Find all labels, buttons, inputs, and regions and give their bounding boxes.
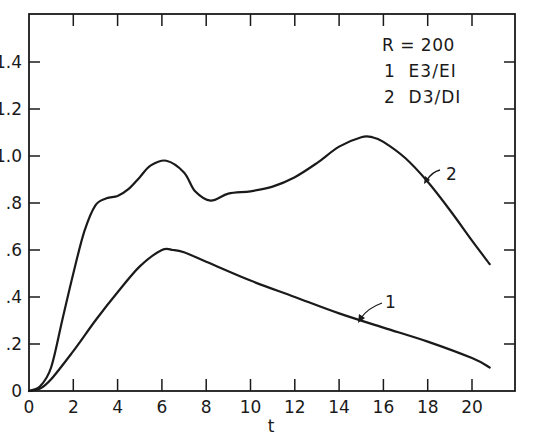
y-tick-label: 0 [11,381,22,401]
data-curves [29,136,490,391]
x-tick-label: 8 [201,397,212,417]
x-tick-label: 6 [156,397,167,417]
y-tick-label: 1.0 [0,146,22,166]
y-tick-label: .2 [6,334,22,354]
y-tick-label: .8 [6,193,22,213]
y-tick-label: .6 [6,240,22,260]
x-tick-label: 16 [373,397,395,417]
legend-entry-1: 1 E3/EI [384,61,457,81]
legend-header: R = 200 [382,35,455,55]
annotation-label-1: 1 [385,292,396,312]
plot-area: 0.2.4.6.81.01.21.4 02468101214161820 21 … [0,0,539,436]
legend-entry-2: 2 D3/DI [384,87,461,107]
y-tick-labels: 0.2.4.6.81.01.21.4 [0,52,22,401]
x-tick-label: 0 [24,397,35,417]
curve-1 [29,249,490,391]
curve-annotations: 21 [358,164,457,323]
x-tick-label: 20 [461,397,483,417]
x-axis-label: t [268,416,275,436]
x-tick-label: 2 [68,397,79,417]
y-tick-label: .4 [6,287,22,307]
x-tick-label: 10 [240,397,262,417]
annotation-label-2: 2 [446,164,457,184]
y-tick-label: 1.2 [0,99,22,119]
annotation-leader-2 [427,170,440,180]
legend: R = 200 1 E3/EI 2 D3/DI [382,35,461,107]
x-tick-labels: 02468101214161820 [24,397,483,417]
x-tick-label: 14 [328,397,350,417]
x-tick-label: 4 [112,397,123,417]
x-tick-label: 18 [417,397,439,417]
y-tick-label: 1.4 [0,52,22,72]
annotation-leader-1 [361,303,382,318]
line-chart: 0.2.4.6.81.01.21.4 02468101214161820 21 … [0,0,539,436]
x-tick-label: 12 [284,397,306,417]
curve-2 [29,136,490,391]
